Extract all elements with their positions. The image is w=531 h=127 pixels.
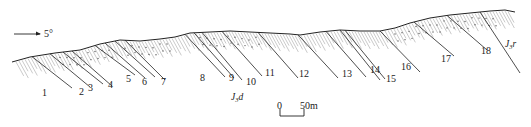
hatch-stroke [22, 60, 28, 71]
sandstone-dot [446, 27, 447, 28]
sandstone-dot [457, 21, 458, 22]
layer-label-10: 10 [246, 76, 256, 87]
layer-boundary-line [125, 40, 165, 80]
layer-boundary-line [32, 57, 72, 88]
layer-boundary-line [258, 32, 298, 78]
hatch-stroke [439, 18, 447, 32]
sandstone-dot [199, 37, 200, 38]
layer-label-15: 15 [386, 73, 396, 84]
hatch-stroke [310, 35, 316, 46]
hatch-stroke [502, 11, 510, 25]
sandstone-dot [59, 57, 60, 58]
sandstone-dot [94, 51, 95, 52]
hatch-stroke [85, 50, 91, 61]
hatch-stroke [454, 16, 460, 27]
hatch-stroke [508, 12, 514, 23]
layer-boundary-line [50, 54, 90, 87]
hatch-stroke [280, 35, 289, 52]
sandstone-dot [127, 55, 128, 56]
scale-end-label: 50m [300, 100, 318, 111]
hatch-stroke [319, 33, 325, 44]
hatch-stroke [355, 32, 361, 43]
hatch-stroke [370, 32, 379, 49]
layer-label-18: 18 [481, 45, 491, 56]
layer-label-17: 17 [441, 53, 451, 64]
hatch-stroke [151, 41, 159, 55]
hatch-stroke [106, 44, 114, 58]
hatch-stroke [490, 12, 496, 23]
sandstone-dot [408, 31, 409, 32]
sandstone-dot [248, 39, 249, 40]
sandstone-dot [216, 45, 217, 46]
formation-label-j3d: J3d [231, 92, 243, 103]
sandstone-dot [443, 20, 444, 21]
hatch-stroke [493, 12, 501, 26]
sandstone-dot [258, 44, 259, 45]
sandstone-dot [415, 26, 416, 27]
layer-label-11: 11 [265, 67, 275, 78]
sandstone-dot [439, 31, 440, 32]
sandstone-dot [169, 50, 170, 51]
hatch-stroke [466, 14, 474, 28]
sandstone-dot [83, 64, 84, 65]
sandstone-dot [73, 57, 74, 58]
sandstone-dot [155, 54, 156, 55]
hatch-stroke [88, 49, 96, 63]
sandstone-dot [422, 25, 423, 26]
sandstone-dot [97, 58, 98, 59]
hatch-stroke [220, 33, 226, 44]
sandstone-dot [432, 31, 433, 32]
hatch-stroke [361, 32, 370, 49]
hatch-stroke [313, 34, 321, 48]
sandstone-dot [66, 57, 67, 58]
sandstone-dot [220, 39, 221, 40]
hatch-stroke [298, 36, 307, 53]
sandstone-dot [471, 17, 472, 18]
sandstone-dot [108, 50, 109, 51]
sandstone-dot [495, 25, 496, 26]
sandstone-dot [230, 42, 231, 43]
sandstone-dot [223, 46, 224, 47]
sandstone-dot [394, 33, 395, 34]
hatch-stroke [139, 42, 145, 53]
sandstone-dot [166, 43, 167, 44]
hatch-stroke [229, 32, 235, 43]
hatch-stroke [391, 30, 397, 41]
hatch-stroke [121, 41, 127, 52]
sandstone-dot [411, 38, 412, 39]
sandstone-dot [481, 24, 482, 25]
orientation-label: 5° [44, 28, 53, 39]
sandstone-dot [90, 59, 91, 60]
sandstone-dot [134, 52, 135, 53]
hatch-stroke [400, 27, 406, 38]
sandstone-dot [450, 20, 451, 21]
sandstone-dot [401, 32, 402, 33]
sandstone-dot [148, 54, 149, 55]
layer-label-14: 14 [370, 64, 380, 75]
sandstone-dot [397, 40, 398, 41]
scale-bar: 0 50m [277, 100, 318, 116]
hatch-stroke [499, 11, 505, 22]
hatch-stroke [373, 32, 379, 43]
sandstone-dot [87, 52, 88, 53]
layer-label-6: 6 [142, 76, 147, 87]
hatch-stroke [409, 24, 415, 35]
layer-label-3: 3 [88, 82, 93, 93]
hatch-stroke [406, 25, 415, 42]
layer-label-16: 16 [401, 61, 411, 72]
sandstone-dot [152, 47, 153, 48]
layer-label-12: 12 [299, 68, 309, 79]
layer-boundaries [32, 12, 520, 88]
hatch-stroke [367, 32, 375, 46]
hatch-stroke [238, 32, 244, 43]
sandstone-dot [485, 18, 486, 19]
hatch-stroke [184, 36, 190, 47]
sandstone-dot [76, 64, 77, 65]
layer-boundary-line [185, 34, 225, 77]
sandstone-dot [138, 46, 139, 47]
sandstone-dot [478, 17, 479, 18]
layer-labels: 1 2 3 4 5 6 7 8 9 10 11 12 13 14 15 16 1… [42, 45, 491, 98]
sandstone-dot [244, 45, 245, 46]
layer-boundary-line [115, 41, 155, 77]
sandstone-dot [418, 33, 419, 34]
